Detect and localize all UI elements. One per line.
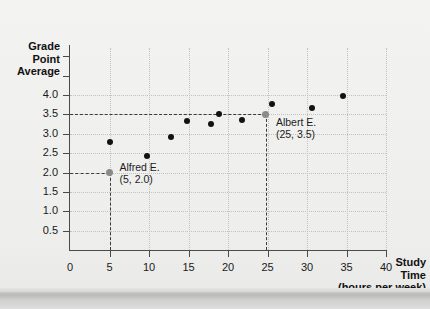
x-axis-tick-label: 20: [213, 261, 243, 273]
gridline-vertical: [347, 48, 348, 250]
y-axis-tick: [63, 134, 70, 135]
x-axis-tick-label: 0: [55, 261, 85, 273]
data-point: [239, 117, 245, 123]
y-axis-tick: [63, 231, 70, 232]
y-axis-tick: [63, 192, 70, 193]
annotation-coordinates: (25, 3.5): [276, 128, 316, 140]
plot-area: [70, 48, 386, 250]
y-axis-tick: [63, 56, 70, 57]
y-axis-tick-label: 0.5: [24, 224, 58, 236]
x-axis-tick: [307, 250, 308, 257]
data-point: [184, 118, 190, 124]
x-axis-tick-label: 15: [174, 261, 204, 273]
gridline-vertical: [189, 48, 190, 250]
point-annotation: Albert E.(25, 3.5): [276, 116, 316, 140]
leader-line-horizontal: [70, 173, 110, 174]
x-axis-tick: [386, 250, 387, 257]
x-axis-tick: [110, 250, 111, 257]
x-axis-tick-label: 25: [253, 261, 283, 273]
annotation-coordinates: (5, 2.0): [120, 173, 160, 185]
x-axis-tick-label: 10: [134, 261, 164, 273]
leader-line-vertical: [266, 114, 267, 250]
scatter-plot-figure: Grade Point Average Study Time (hours pe…: [0, 0, 430, 292]
gridline-vertical: [386, 48, 387, 250]
y-axis-tick: [63, 95, 70, 96]
x-axis-tick: [189, 250, 190, 257]
x-axis-tick: [268, 250, 269, 257]
y-axis-title-line2: Point: [0, 53, 60, 66]
scanned-page: Grade Point Average Study Time (hours pe…: [0, 0, 430, 309]
data-point: [269, 101, 275, 107]
data-point: [107, 139, 113, 145]
data-point: [340, 93, 346, 99]
annotation-name: Albert E.: [276, 116, 316, 128]
leader-line-vertical: [110, 173, 111, 251]
gridline-vertical: [307, 48, 308, 250]
x-axis-tick-label: 5: [95, 261, 125, 273]
y-axis-tick: [63, 211, 70, 212]
x-axis-tick-label: 30: [292, 261, 322, 273]
data-point: [168, 134, 174, 140]
y-axis-tick-label: 3.5: [24, 107, 58, 119]
y-axis-tick: [63, 153, 70, 154]
y-axis-tick: [63, 76, 70, 77]
y-axis-tick-label: 3.0: [24, 127, 58, 139]
annotation-name: Alfred E.: [120, 161, 160, 173]
data-point-highlighted: [106, 169, 113, 176]
data-point: [208, 121, 214, 127]
gridline-vertical: [228, 48, 229, 250]
page-bottom-shadow: [0, 292, 430, 309]
y-axis-tick-label: 4.0: [24, 88, 58, 100]
x-axis-tick-label: 40: [371, 261, 401, 273]
y-axis-title-line1: Grade: [0, 40, 60, 53]
y-axis-tick-label: 1.0: [24, 204, 58, 216]
y-axis-title-line3: Average: [0, 65, 60, 78]
y-axis-tick-label: 2.5: [24, 146, 58, 158]
point-annotation: Alfred E.(5, 2.0): [120, 161, 160, 185]
leader-line-horizontal: [70, 114, 266, 115]
x-axis-tick: [347, 250, 348, 257]
x-axis-tick: [149, 250, 150, 257]
x-axis-tick: [228, 250, 229, 257]
y-axis-tick-label: 1.5: [24, 185, 58, 197]
x-axis-tick-label: 35: [332, 261, 362, 273]
y-axis-title: Grade Point Average: [0, 40, 60, 78]
gridline-vertical: [149, 48, 150, 250]
data-point: [216, 111, 222, 117]
data-point: [309, 105, 315, 111]
y-axis-tick: [63, 173, 70, 174]
y-axis-tick-label: 2.0: [24, 166, 58, 178]
gridline-vertical: [268, 48, 269, 250]
y-axis-tick: [63, 114, 70, 115]
